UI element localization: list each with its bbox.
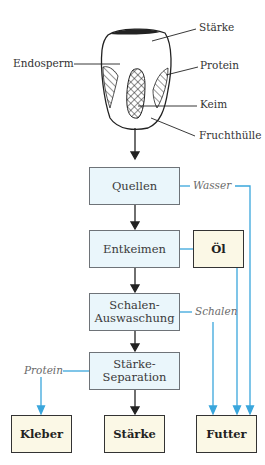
stream-hulls: Schalen xyxy=(195,305,237,317)
product-gluten: Kleber xyxy=(11,415,72,453)
process-schalen-line2: Auswaschung xyxy=(94,312,174,325)
product-gluten-label: Kleber xyxy=(20,427,63,441)
process-separation-line2: Separation xyxy=(103,371,167,384)
process-quellen: Quellen xyxy=(89,167,180,205)
stream-water: Wasser xyxy=(193,179,231,191)
label-germ: Keim xyxy=(200,98,227,110)
germ xyxy=(127,69,145,118)
label-starch: Stärke xyxy=(199,21,234,33)
process-quellen-label: Quellen xyxy=(112,180,157,193)
product-starch: Stärke xyxy=(104,415,165,453)
product-oil: Öl xyxy=(193,230,244,268)
process-entkeimen: Entkeimen xyxy=(89,230,180,268)
process-staerke-separation: Stärke- Separation xyxy=(89,352,180,390)
product-oil-label: Öl xyxy=(211,242,225,256)
product-starch-label: Stärke xyxy=(113,427,155,441)
product-feed-label: Futter xyxy=(206,427,246,441)
label-hull: Fruchthülle xyxy=(199,129,261,141)
process-entkeimen-label: Entkeimen xyxy=(103,243,166,256)
label-endosperm: Endosperm xyxy=(13,57,74,69)
stream-protein: Protein xyxy=(24,364,63,376)
product-feed: Futter xyxy=(196,415,257,453)
label-protein: Protein xyxy=(200,59,239,71)
process-schalen-auswaschung: Schalen- Auswaschung xyxy=(89,293,180,331)
leader-hull xyxy=(151,118,195,136)
grain-illustration xyxy=(74,29,198,136)
